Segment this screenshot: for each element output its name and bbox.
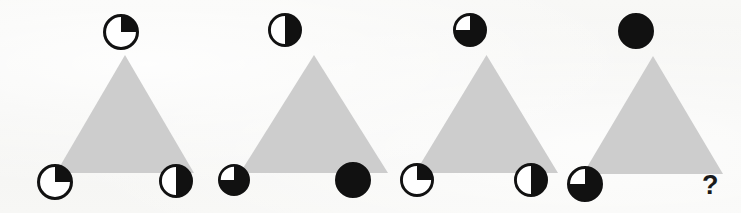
- pie-circle-75-icon: [567, 166, 603, 202]
- puzzle-panel-4: ?: [560, 0, 741, 213]
- triangle-shape: [56, 55, 194, 173]
- pie-circle-100-icon: [335, 162, 371, 198]
- pie-circle-75-icon: [218, 164, 250, 196]
- puzzle-panel-3: [380, 0, 560, 213]
- triangle-shape: [240, 55, 388, 173]
- pie-circle-25-icon: [103, 14, 139, 50]
- pie-circle-25-icon: [37, 164, 73, 200]
- pie-circle-50-icon: [268, 13, 302, 47]
- pie-circle-75-icon: [453, 13, 487, 47]
- puzzle-canvas: ?: [0, 0, 741, 213]
- pie-circle-100-icon: [618, 13, 654, 49]
- puzzle-panel-2: [190, 0, 380, 213]
- pie-circle-50-icon: [514, 163, 548, 197]
- pie-circle-25-icon: [400, 163, 434, 197]
- triangle-shape: [415, 55, 558, 173]
- pie-circle-50-icon: [159, 164, 193, 198]
- answer-placeholder[interactable]: ?: [692, 166, 726, 200]
- question-mark-icon: ?: [702, 172, 719, 199]
- triangle-shape: [583, 56, 723, 174]
- puzzle-panel-1: [0, 0, 190, 213]
